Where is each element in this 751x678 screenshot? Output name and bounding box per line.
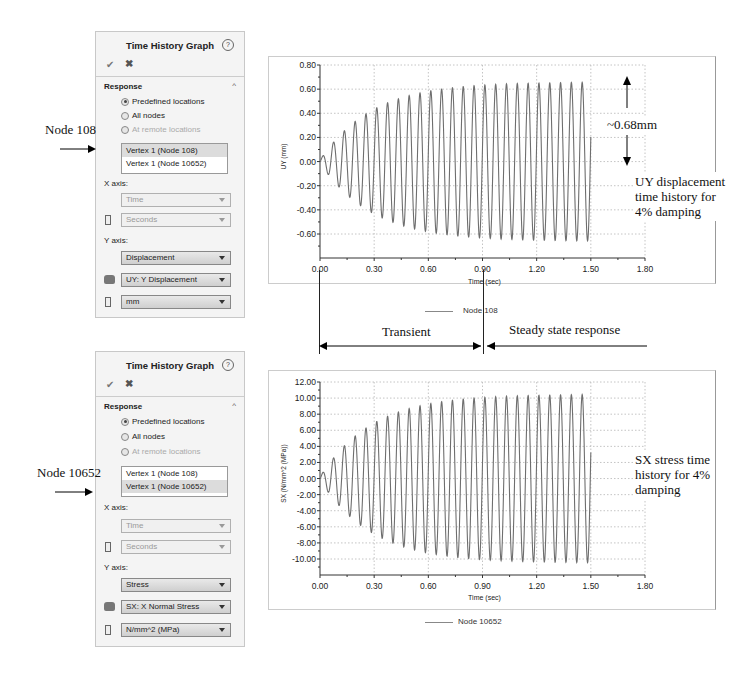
y-tick-label: -0.60: [297, 229, 317, 239]
y-tick-label: -0.40: [297, 205, 317, 215]
y-tick-label: 12.00: [295, 377, 317, 387]
x-tick-label: 0.30: [366, 581, 383, 591]
series-line: [320, 395, 591, 563]
x-axis-title: Time (sec): [468, 278, 501, 286]
y-tick-label: 0.40: [299, 108, 316, 118]
uy-displacement-chart: 0.800.600.400.200.00-0.20-0.40-0.600.000…: [280, 60, 654, 286]
x-tick-label: 1.20: [528, 581, 545, 591]
caption-line: 4% damping: [635, 204, 725, 219]
amplitude-annotation: ~0.68mm: [607, 117, 657, 133]
x-tick-label: 0.30: [366, 264, 383, 274]
legend-swatch: [425, 311, 453, 312]
y-axis-title: SX (N/mm^2 (MPa)): [280, 444, 288, 502]
y-axis-title: UY (mm): [280, 144, 288, 170]
charts-layer: 0.800.600.400.200.00-0.20-0.40-0.600.000…: [0, 0, 751, 678]
x-tick-label: 1.50: [583, 264, 600, 274]
x-tick-label: 0.60: [420, 264, 437, 274]
y-tick-label: -6.00: [297, 522, 317, 532]
x-tick-label: 0.00: [312, 264, 329, 274]
x-tick-label: 1.80: [637, 581, 654, 591]
legend-label-node-108: Node 108: [463, 306, 498, 315]
sx-stress-chart: 12.0010.008.006.004.002.000.00-2.00-4.00…: [280, 377, 654, 602]
y-tick-label: 0.20: [299, 132, 316, 142]
y-tick-label: 0.80: [299, 60, 316, 70]
x-tick-label: 1.80: [637, 264, 654, 274]
range-arrows-icon: [319, 341, 649, 351]
x-tick-label: 1.50: [583, 581, 600, 591]
y-tick-label: 0.00: [299, 157, 316, 167]
y-tick-label: 2.00: [299, 457, 316, 467]
caption-line: time history for: [635, 189, 725, 204]
steady-state-label: Steady state response: [509, 322, 620, 338]
caption-line: damping: [635, 482, 710, 497]
y-tick-label: 0.60: [299, 84, 316, 94]
x-tick-label: 0.90: [474, 581, 491, 591]
bottom-chart-caption: SX stress time history for 4% damping: [633, 450, 712, 499]
transient-label: Transient: [382, 324, 431, 340]
x-axis-title: Time (sec): [468, 594, 501, 602]
x-tick-label: 0.60: [420, 581, 437, 591]
top-chart-caption: UY displacement time history for 4% damp…: [633, 172, 727, 221]
caption-line: SX stress time: [635, 452, 710, 467]
y-tick-label: 8.00: [299, 409, 316, 419]
y-tick-label: -10.00: [292, 554, 316, 564]
x-tick-label: 1.20: [528, 264, 545, 274]
y-tick-label: 10.00: [295, 393, 317, 403]
y-tick-label: 4.00: [299, 441, 316, 451]
series-line: [320, 82, 591, 240]
y-tick-label: -2.00: [297, 490, 317, 500]
caption-line: history for 4%: [635, 467, 710, 482]
y-tick-label: -4.00: [297, 506, 317, 516]
y-tick-label: 0.00: [299, 474, 316, 484]
y-tick-label: -8.00: [297, 538, 317, 548]
y-tick-label: -0.20: [297, 181, 317, 191]
x-tick-label: 0.00: [312, 581, 329, 591]
legend-label-node-10652: Node 10652: [458, 617, 502, 626]
y-tick-label: 6.00: [299, 425, 316, 435]
legend-swatch: [425, 622, 453, 623]
caption-line: UY displacement: [635, 174, 725, 189]
